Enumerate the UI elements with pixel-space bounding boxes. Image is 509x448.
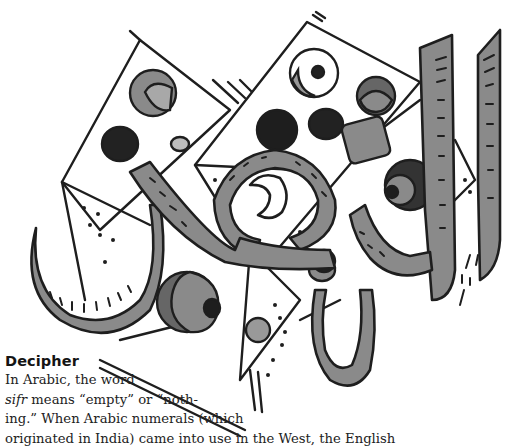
sidebar-body: In Arabic, the word sifr means “empty” o… xyxy=(5,370,505,448)
line-text: means “empty” or “noth- xyxy=(27,392,198,407)
body-line-1: In Arabic, the word xyxy=(5,370,505,390)
italic-word-sifr: sifr xyxy=(5,392,27,407)
line-text: ing.” When Arabic numerals (which xyxy=(5,411,243,426)
body-line-4: originated in India) came into use in th… xyxy=(5,429,505,448)
decipher-sidebar: Decipher In Arabic, the word sifr means … xyxy=(5,352,505,448)
body-line-2: sifr means “empty” or “noth- xyxy=(5,390,505,410)
sidebar-heading: Decipher xyxy=(5,352,505,370)
line-text: In Arabic, the word xyxy=(5,372,135,387)
line-text: originated in India) came into use in th… xyxy=(5,431,395,446)
body-line-3: ing.” When Arabic numerals (which xyxy=(5,409,505,429)
